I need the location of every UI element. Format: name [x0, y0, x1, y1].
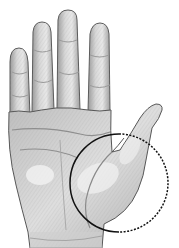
index-finger — [88, 23, 110, 112]
ring-finger — [32, 22, 54, 112]
palm-drawing — [0, 0, 179, 248]
palm — [9, 104, 162, 248]
middle-finger — [57, 10, 80, 110]
pinky-finger — [10, 48, 30, 116]
hand-illustration: Hand palm illustration with circled thum… — [0, 0, 179, 248]
